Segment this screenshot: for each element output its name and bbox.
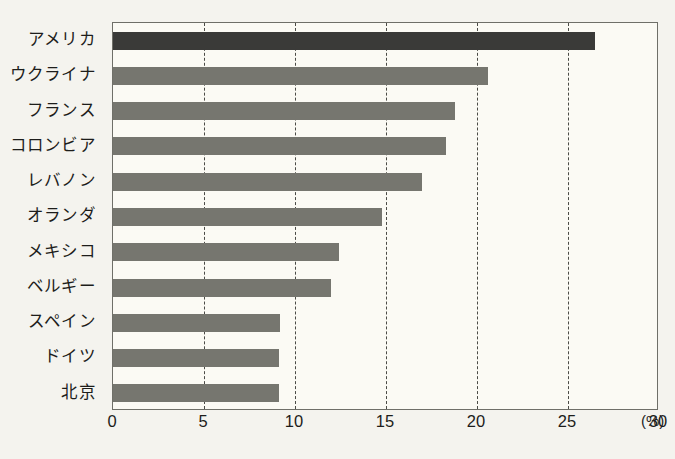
category-label: アメリカ: [28, 22, 96, 57]
plot-area: [112, 22, 658, 410]
bar: [113, 32, 595, 50]
bar: [113, 67, 488, 85]
bar-chart: アメリカウクライナフランスコロンビアレバノンオランダメキシコベルギースペインドイ…: [0, 0, 675, 459]
category-label: ベルギー: [27, 269, 96, 304]
gridline-25: [568, 23, 569, 409]
category-label: フランス: [27, 93, 96, 128]
category-label: コロンビア: [10, 128, 97, 163]
x-tick-label: 0: [107, 412, 116, 431]
category-axis: アメリカウクライナフランスコロンビアレバノンオランダメキシコベルギースペインドイ…: [0, 22, 104, 410]
bar: [113, 102, 455, 120]
category-label: 北京: [61, 375, 96, 410]
bar: [113, 137, 446, 155]
value-axis: (%) 051015202530: [0, 412, 675, 440]
category-label: メキシコ: [27, 234, 96, 269]
category-label: レバノン: [27, 163, 96, 198]
x-tick-label: 10: [285, 412, 303, 431]
bar: [113, 349, 279, 367]
category-label: オランダ: [27, 198, 96, 233]
bar: [113, 243, 339, 261]
x-tick-label: 15: [376, 412, 394, 431]
bar: [113, 384, 279, 402]
category-label: スペイン: [28, 304, 96, 339]
bar: [113, 314, 280, 332]
bar: [113, 208, 382, 226]
bar: [113, 173, 422, 191]
x-tick-label: 5: [198, 412, 207, 431]
category-label: ウクライナ: [10, 57, 97, 92]
x-tick-label: 25: [558, 412, 576, 431]
x-tick-label: 30: [649, 412, 667, 431]
x-tick-label: 20: [467, 412, 485, 431]
category-label: ドイツ: [44, 339, 96, 374]
bar: [113, 279, 331, 297]
